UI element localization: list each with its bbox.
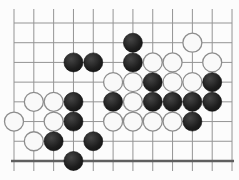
black-stone — [203, 92, 222, 111]
white-stone — [143, 53, 162, 72]
white-stone — [123, 73, 142, 92]
white-stone — [163, 53, 182, 72]
white-stone — [5, 112, 24, 131]
black-stone — [123, 53, 142, 72]
black-stone — [44, 132, 63, 151]
black-stone — [183, 112, 202, 131]
white-stone — [143, 112, 162, 131]
white-stone — [104, 112, 123, 131]
white-stone — [24, 92, 43, 111]
white-stone — [44, 112, 63, 131]
black-stone — [123, 33, 142, 52]
white-stone — [24, 132, 43, 151]
white-stone — [123, 112, 142, 131]
white-stone — [44, 92, 63, 111]
white-stone — [203, 53, 222, 72]
black-stone — [84, 132, 103, 151]
black-stone — [143, 92, 162, 111]
black-stone — [203, 73, 222, 92]
black-stone — [104, 92, 123, 111]
white-stone — [163, 73, 182, 92]
black-stone — [143, 73, 162, 92]
black-stone — [163, 92, 182, 111]
black-stone — [64, 92, 83, 111]
white-stone — [163, 112, 182, 131]
go-board-diagram — [0, 0, 239, 180]
grid-lines — [11, 9, 234, 171]
white-stone — [104, 73, 123, 92]
black-stone — [64, 151, 83, 170]
white-stone — [183, 33, 202, 52]
black-stone — [84, 53, 103, 72]
scanned-page — [0, 0, 239, 180]
white-stone — [183, 73, 202, 92]
black-stone — [183, 92, 202, 111]
black-stone — [64, 53, 83, 72]
white-stone — [123, 92, 142, 111]
black-stone — [64, 112, 83, 131]
